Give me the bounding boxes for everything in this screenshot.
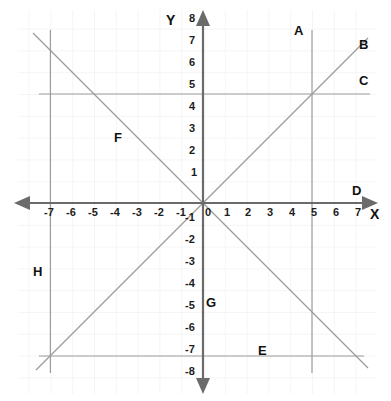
x-tick-1: 1 [224, 207, 230, 218]
y-tick-1: 1 [191, 167, 197, 178]
y-tick-neg-1: -1 [185, 212, 195, 223]
label-h: H [33, 265, 42, 278]
x-tick-4: 4 [289, 207, 295, 218]
label-b: B [359, 38, 368, 51]
y-tick-2: 2 [189, 145, 195, 156]
label-c: C [359, 74, 368, 87]
x-tick-6: 6 [333, 207, 339, 218]
y-tick-neg-7: -7 [185, 344, 195, 355]
label-f: F [114, 131, 122, 144]
coordinate-plane-graph: Y X 8 7 6 5 4 3 2 1 -1 -2 -3 -4 -5 -6 -7… [0, 0, 391, 401]
x-tick-neg-3: -3 [132, 207, 142, 218]
y-tick-8: 8 [189, 13, 195, 24]
x-tick-neg-6: -6 [66, 207, 76, 218]
y-axis-name-label: Y [166, 13, 175, 27]
y-tick-6: 6 [189, 57, 195, 68]
y-tick-neg-2: -2 [185, 234, 195, 245]
x-tick-3: 3 [267, 207, 273, 218]
y-tick-neg-6: -6 [185, 322, 195, 333]
x-tick-neg-1: -1 [176, 207, 186, 218]
graph-canvas [0, 0, 391, 401]
x-tick-2: 2 [245, 207, 251, 218]
label-g: G [206, 296, 216, 309]
y-tick-3: 3 [189, 123, 195, 134]
label-d: D [352, 184, 361, 197]
label-e: E [258, 344, 267, 357]
x-tick-neg-7: -7 [44, 207, 54, 218]
label-a: A [294, 24, 303, 37]
y-tick-neg-3: -3 [185, 256, 195, 267]
y-tick-7: 7 [189, 35, 195, 46]
x-tick-neg-4: -4 [110, 207, 120, 218]
x-axis-name-label: X [370, 207, 379, 221]
y-tick-neg-5: -5 [185, 300, 195, 311]
y-tick-neg-4: -4 [185, 278, 195, 289]
x-tick-7: 7 [355, 207, 361, 218]
y-tick-4: 4 [189, 101, 195, 112]
y-tick-neg-8: -8 [185, 366, 195, 377]
x-tick-5: 5 [311, 207, 317, 218]
x-tick-neg-5: -5 [88, 207, 98, 218]
y-tick-5: 5 [189, 79, 195, 90]
x-tick-neg-2: -2 [154, 207, 164, 218]
x-tick-0: 0 [205, 207, 211, 218]
